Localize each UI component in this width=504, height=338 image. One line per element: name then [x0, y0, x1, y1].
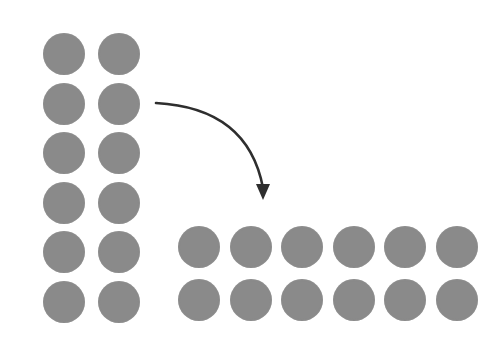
arrowhead-icon: [256, 184, 270, 200]
array-rearrangement-diagram: [0, 0, 504, 338]
arrow-curve: [156, 103, 263, 188]
curved-arrow-icon: [0, 0, 504, 338]
